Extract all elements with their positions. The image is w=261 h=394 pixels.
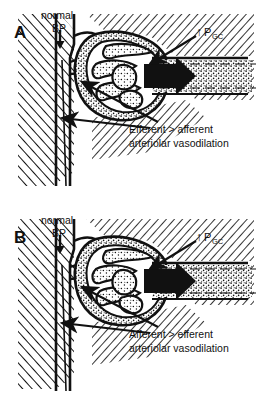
- bp-label-line1: normal: [41, 214, 73, 226]
- panel-letter-b: B: [14, 228, 26, 247]
- pgc-base: P: [204, 26, 211, 38]
- annotation-line1-a: Efferent > afferent: [129, 123, 213, 135]
- panel-b: B normal BP ↑ P GC Afferent > efferent a…: [0, 197, 261, 394]
- pgc-up-arrow-glyph: ↑: [196, 25, 202, 39]
- annotation-line2-b: arteriolar vasodilation: [129, 342, 229, 354]
- pgc-subscript: GC: [212, 237, 224, 246]
- panel-a: A normal BP ↑ P GC Efferent > afferent a…: [0, 0, 261, 197]
- panel-letter-a: A: [14, 23, 26, 42]
- bp-label-line2: BP: [52, 22, 66, 34]
- pgc-up-arrow-glyph: ↑: [196, 230, 202, 244]
- annotation-line2-a: arteriolar vasodilation: [129, 137, 229, 149]
- pgc-subscript: GC: [212, 32, 224, 41]
- bp-label-line2: BP: [52, 227, 66, 239]
- bp-label-line1: normal: [41, 9, 73, 21]
- pgc-base: P: [204, 231, 211, 243]
- annotation-line1-b: Afferent > efferent: [129, 328, 213, 340]
- figure-canvas: A normal BP ↑ P GC Efferent > afferent a…: [0, 0, 261, 394]
